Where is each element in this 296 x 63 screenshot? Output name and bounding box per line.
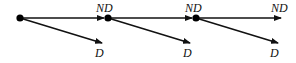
default-label: D [94, 46, 104, 60]
default-label: D [182, 46, 192, 60]
default-arrow [196, 18, 278, 43]
no-default-label: ND [270, 1, 288, 15]
decision-node [16, 14, 23, 21]
decision-node [104, 14, 111, 21]
default-label: D [269, 46, 279, 60]
diagram-svg: NDDNDDNDD [0, 0, 296, 63]
decision-node [192, 14, 199, 21]
decision-tree-diagram: NDDNDDNDD [0, 0, 296, 63]
no-default-label: ND [95, 1, 113, 15]
default-arrow [20, 18, 102, 43]
edges-group [20, 18, 281, 43]
labels-group: NDDNDDNDD [94, 1, 288, 60]
no-default-label: ND [184, 1, 202, 15]
default-arrow [108, 18, 190, 43]
